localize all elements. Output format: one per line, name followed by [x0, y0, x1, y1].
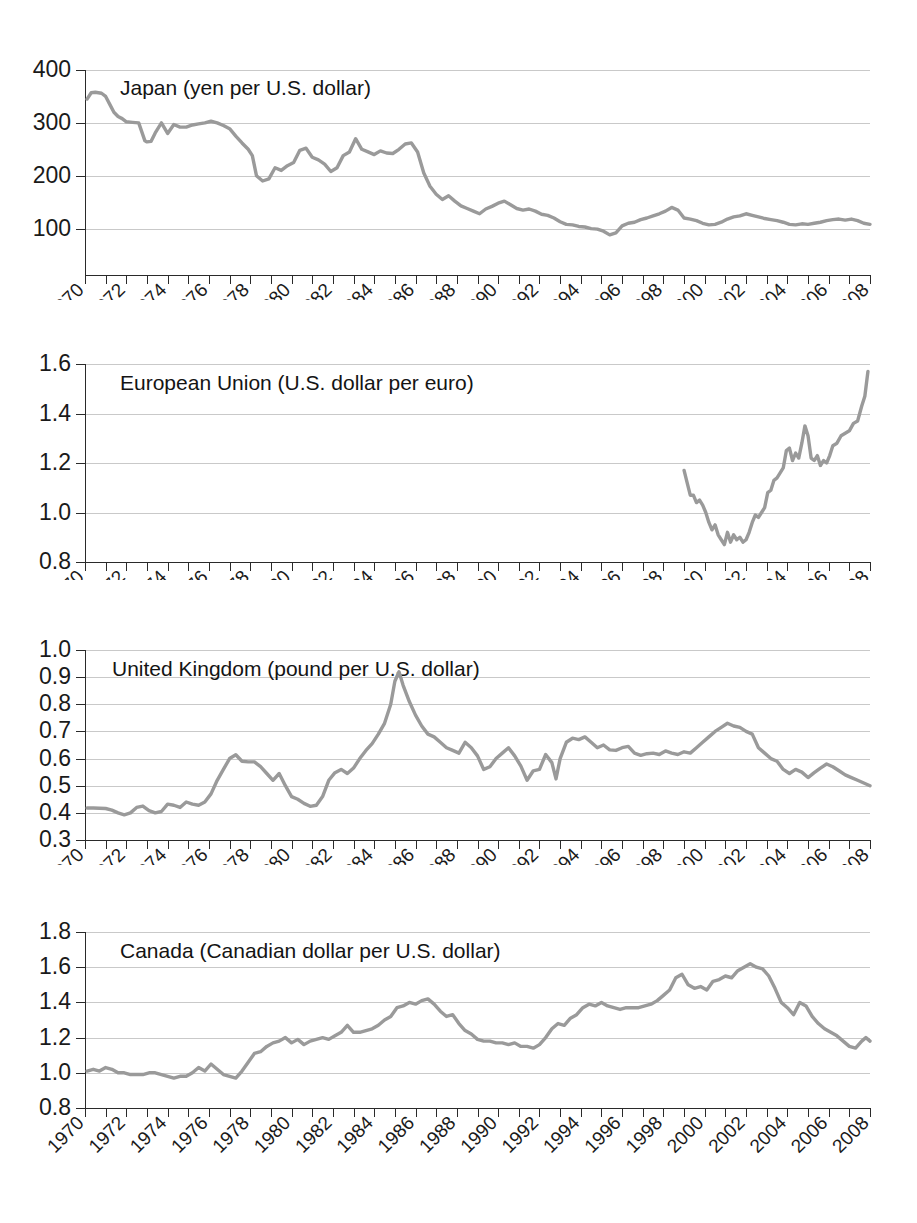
- chart-panel-canada: 0.81.01.21.41.61.81970197219741976197819…: [0, 865, 917, 1165]
- x-axis-tick-label: 1994: [539, 1112, 584, 1157]
- y-axis-tick-label: 0.7: [39, 717, 71, 743]
- x-axis-tick-label: 1996: [580, 844, 625, 865]
- x-axis-tick-label: 2002: [704, 844, 749, 865]
- y-axis-tick-label: 0.3: [39, 826, 71, 852]
- y-axis-tick-label: 1.4: [39, 400, 71, 426]
- y-axis-tick-label: 0.8: [39, 690, 71, 716]
- y-axis-tick-label: 0.9: [39, 663, 71, 689]
- chart-title: European Union (U.S. dollar per euro): [120, 371, 474, 394]
- y-axis-tick-label: 100: [33, 215, 71, 241]
- exchange-rate-figure: 1002003004001970197219741976197819801982…: [0, 0, 917, 1223]
- x-axis-tick-label: 1976: [167, 844, 212, 865]
- x-axis-tick-label: 1994: [539, 279, 584, 300]
- x-axis-tick-label: 1996: [580, 279, 625, 300]
- x-axis-tick-label: 1996: [580, 1112, 625, 1157]
- chart-svg: 0.30.40.50.60.70.80.91.01970197219741976…: [0, 580, 917, 865]
- y-axis-tick-label: 1.0: [39, 1059, 71, 1085]
- y-axis-tick-label: 1.2: [39, 1024, 71, 1050]
- y-axis-tick-label: 1.0: [39, 636, 71, 662]
- y-axis-tick-label: 0.8: [39, 1094, 71, 1120]
- chart-svg: 0.81.01.21.41.61970197219741976197819801…: [0, 300, 917, 580]
- chart-title: United Kingdom (pound per U.S. dollar): [112, 657, 480, 680]
- x-axis-tick-label: 1974: [126, 844, 171, 865]
- x-axis-tick-label: 2002: [704, 1112, 749, 1157]
- y-axis-tick-label: 400: [33, 56, 71, 82]
- x-axis-tick-label: 2008: [828, 1112, 873, 1157]
- chart-panel-european-union: 0.81.01.21.41.61970197219741976197819801…: [0, 300, 917, 580]
- data-series-line: [87, 672, 870, 815]
- chart-panel-japan: 1002003004001970197219741976197819801982…: [0, 0, 917, 300]
- x-axis-tick-label: 2008: [828, 566, 873, 580]
- x-axis-tick-label: 1976: [167, 566, 212, 580]
- x-axis-tick-label: 2006: [787, 1112, 832, 1157]
- y-axis-tick-label: 1.4: [39, 988, 71, 1014]
- x-axis-tick-label: 1976: [167, 279, 212, 300]
- data-series-line: [87, 964, 870, 1078]
- x-axis-tick-label: 2002: [704, 566, 749, 580]
- x-axis-tick-label: 2008: [828, 279, 873, 300]
- y-axis-tick-label: 1.6: [39, 350, 71, 376]
- y-axis-tick-label: 1.0: [39, 499, 71, 525]
- x-axis-tick-label: 1984: [332, 1112, 377, 1157]
- x-axis-tick-label: 1978: [208, 1112, 253, 1157]
- y-axis-tick-label: 0.4: [39, 799, 71, 825]
- x-axis-tick-label: 1988: [415, 566, 460, 580]
- x-axis-tick-label: 1996: [580, 566, 625, 580]
- data-series-line: [87, 92, 870, 235]
- x-axis-tick-label: 1982: [291, 279, 336, 300]
- x-axis-tick-label: 1972: [84, 1112, 129, 1157]
- x-axis-tick-label: 1988: [415, 279, 460, 300]
- x-axis-tick-label: 1994: [539, 566, 584, 580]
- chart-svg: 0.81.01.21.41.61.81970197219741976197819…: [0, 865, 917, 1165]
- x-axis-tick-label: 1976: [167, 1112, 212, 1157]
- x-axis-tick-label: 1994: [539, 844, 584, 865]
- x-axis-tick-label: 2002: [704, 279, 749, 300]
- x-axis-tick-label: 1986: [374, 1112, 419, 1157]
- data-series-line: [684, 371, 868, 544]
- y-axis-tick-label: 1.2: [39, 449, 71, 475]
- x-axis-tick-label: 1982: [291, 566, 336, 580]
- x-axis-tick-label: 1982: [291, 1112, 336, 1157]
- x-axis-tick-label: 1974: [126, 1112, 171, 1157]
- x-axis-tick-label: 1988: [415, 844, 460, 865]
- x-axis-tick-label: 2004: [745, 1112, 790, 1157]
- chart-title: Japan (yen per U.S. dollar): [120, 76, 371, 99]
- y-axis-tick-label: 1.8: [39, 918, 71, 944]
- y-axis-tick-label: 0.6: [39, 745, 71, 771]
- y-axis-tick-label: 0.8: [39, 548, 71, 574]
- y-axis-tick-label: 1.6: [39, 953, 71, 979]
- x-axis-tick-label: 1988: [415, 1112, 460, 1157]
- x-axis-tick-label: 1970: [43, 279, 88, 300]
- x-axis-tick-label: 1990: [456, 1112, 501, 1157]
- x-axis-tick-label: 1982: [291, 844, 336, 865]
- x-axis-tick-label: 1974: [126, 279, 171, 300]
- x-axis-tick-label: 1998: [622, 1112, 667, 1157]
- x-axis-tick-label: 2008: [828, 844, 873, 865]
- y-axis-tick-label: 200: [33, 162, 71, 188]
- x-axis-tick-label: 1980: [250, 1112, 295, 1157]
- x-axis-tick-label: 2000: [663, 1112, 708, 1157]
- x-axis-tick-label: 1974: [126, 566, 171, 580]
- y-axis-tick-label: 0.5: [39, 772, 71, 798]
- chart-title: Canada (Canadian dollar per U.S. dollar): [120, 939, 501, 962]
- chart-panel-united-kingdom: 0.30.40.50.60.70.80.91.01970197219741976…: [0, 580, 917, 865]
- chart-svg: 1002003004001970197219741976197819801982…: [0, 0, 917, 300]
- x-axis-tick-label: 1992: [498, 1112, 543, 1157]
- y-axis-tick-label: 300: [33, 109, 71, 135]
